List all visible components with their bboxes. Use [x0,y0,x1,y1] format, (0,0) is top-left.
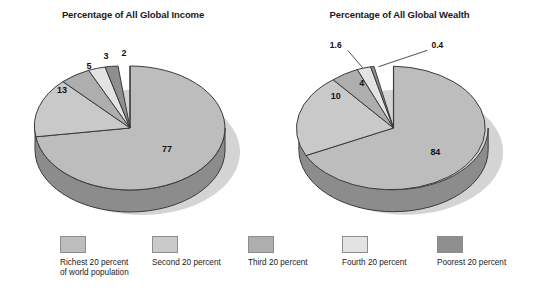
leader-line-1-6 [348,50,363,67]
legend-label-richest: Richest 20 percent of world population [60,258,129,278]
leader-line-0-4 [379,50,428,66]
chart-title-income: Percentage of All Global Income [0,9,266,20]
legend-label-fourth-line1: Fourth 20 percent [342,258,407,267]
chart-title-wealth: Percentage of All Global Wealth [266,9,533,20]
legend-item-poorest: Poorest 20 percent [437,236,506,268]
legend-label-fourth: Fourth 20 percent [342,258,407,268]
legend-label-poorest-line1: Poorest 20 percent [437,258,506,267]
pie-svg-wealth: 84 10 4 1.6 0.4 [266,24,532,224]
slice-value-2: 2 [121,48,126,58]
legend-label-second: Second 20 percent [152,258,221,268]
pie-chart-global-income: 77 13 5 3 2 [0,24,266,224]
slice-value-84: 84 [430,147,440,157]
legend-item-fourth: Fourth 20 percent [342,236,407,268]
legend-item-third: Third 20 percent [248,236,308,268]
pie-chart-global-wealth: 84 10 4 1.6 0.4 [266,24,532,224]
slice-value-0-4: 0.4 [431,40,443,50]
legend-item-richest: Richest 20 percent of world population [60,236,129,278]
legend-label-second-line1: Second 20 percent [152,258,221,267]
slice-value-77: 77 [162,144,172,154]
legend-swatch-second [152,236,178,253]
legend-swatch-third [248,236,274,253]
slice-value-3: 3 [103,51,108,61]
legend-swatch-richest [60,236,86,253]
legend-item-second: Second 20 percent [152,236,221,268]
slice-value-5: 5 [86,61,91,71]
legend-swatch-poorest [437,236,463,253]
slice-value-10: 10 [331,91,341,101]
figure-root: Percentage of All Global Income Percenta… [0,0,533,304]
legend-label-richest-line1: Richest 20 percent [60,258,128,267]
pie-svg-income: 77 13 5 3 2 [0,24,266,224]
legend-label-third: Third 20 percent [248,258,308,268]
legend-label-third-line1: Third 20 percent [248,258,308,267]
slice-value-13: 13 [57,85,67,95]
legend-label-richest-line2: of world population [60,268,129,278]
legend-label-poorest: Poorest 20 percent [437,258,506,268]
slice-value-4: 4 [359,78,364,88]
slice-value-1-6: 1.6 [330,40,342,50]
legend-swatch-fourth [342,236,368,253]
legend: Richest 20 percent of world population S… [0,236,533,296]
